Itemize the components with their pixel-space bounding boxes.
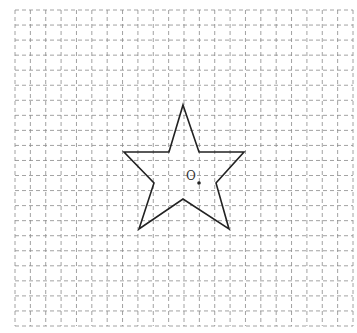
center-label: O xyxy=(186,169,196,183)
dashed-grid xyxy=(15,10,353,326)
center-point-o xyxy=(197,181,201,185)
grid-diagram: O xyxy=(0,0,357,333)
